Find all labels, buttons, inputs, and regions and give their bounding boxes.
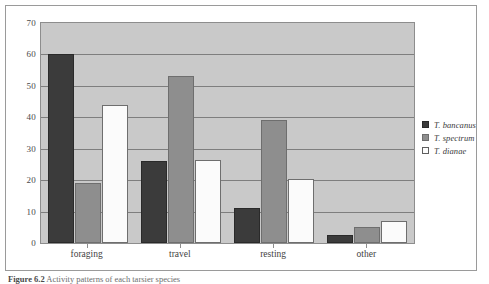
bar-other-t-spectrum [354,227,380,243]
legend-swatch-icon [422,121,429,128]
x-tick-foraging [87,244,88,248]
x-tick-label-resting: resting [260,249,286,259]
y-tick-label-40: 40 [26,112,36,122]
legend-item-t-dianae[interactable]: T. dianae [422,145,484,156]
y-tick-label-70: 70 [26,18,36,28]
y-tick-label-10: 10 [26,207,36,217]
x-tick-resting [273,244,274,248]
figure-frame: 010203040506070 foragingtravelrestingoth… [5,5,477,271]
y-tick-label-60: 60 [26,49,36,59]
y-tick-label-30: 30 [26,144,36,154]
x-tick-label-foraging: foraging [71,249,103,259]
bar-group-travel [141,23,221,243]
bar-foraging-t-bancanus [48,54,74,243]
bar-resting-t-bancanus [234,208,260,243]
y-axis: 010203040506070 [6,22,40,244]
legend-swatch-icon [422,147,429,154]
y-tick-label-50: 50 [26,81,36,91]
plot-area [40,22,415,244]
bar-resting-t-spectrum [261,120,287,243]
bar-other-t-dianae [381,221,407,243]
x-tick-label-travel: travel [169,249,191,259]
x-axis: foragingtravelrestingother [40,244,415,266]
bar-group-other [327,23,407,243]
bar-other-t-bancanus [327,235,353,243]
figure-caption: Figure 6.2 Activity patterns of each tar… [8,274,468,284]
bar-travel-t-bancanus [141,161,167,243]
bar-travel-t-spectrum [168,76,194,243]
x-tick-travel [180,244,181,248]
bar-group-resting [234,23,314,243]
y-tick-label-0: 0 [31,238,36,248]
bar-resting-t-dianae [288,179,314,243]
figure-caption-text: Activity patterns of each tarsier specie… [46,274,180,284]
legend-label: T. dianae [434,146,466,156]
bar-foraging-t-dianae [102,105,128,243]
x-tick-label-other: other [357,249,377,259]
legend-swatch-icon [422,134,429,141]
bar-foraging-t-spectrum [75,183,101,243]
legend-label: T. spectrum [434,133,475,143]
legend-item-t-spectrum[interactable]: T. spectrum [422,132,484,143]
bar-group-foraging [48,23,128,243]
bars-layer [41,23,414,243]
bar-travel-t-dianae [195,160,221,243]
figure-caption-label: Figure 6.2 [8,274,45,284]
y-tick-label-20: 20 [26,175,36,185]
legend-label: T. bancanus [434,120,476,130]
legend-item-t-bancanus[interactable]: T. bancanus [422,119,484,130]
x-tick-other [366,244,367,248]
chart-legend: T. bancanusT. spectrumT. dianae [422,119,484,158]
